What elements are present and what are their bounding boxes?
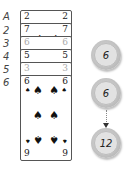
card-rank: 2 xyxy=(62,12,68,21)
spade-icon: ♠ xyxy=(25,138,30,144)
chip-6-second[interactable]: 6 xyxy=(91,78,121,108)
chip-value: 12 xyxy=(94,131,118,155)
card-rank: 3 xyxy=(24,64,30,73)
row-label-4: 4 xyxy=(3,52,15,62)
chip-value: 6 xyxy=(94,81,118,105)
card-rank: 3 xyxy=(62,64,68,73)
card-rank: 5 xyxy=(24,51,30,60)
card-6-spades[interactable]: 6 6 ♠ ♠ ♠ ♠ ♠ ♠ ♠ ♠ ♠ ♠ 9 9 xyxy=(20,75,72,161)
card-rank: 2 xyxy=(24,12,30,21)
card-rank: 7 xyxy=(24,25,30,34)
spade-icon: ♠ xyxy=(25,87,30,93)
row-label-a: A xyxy=(3,12,15,22)
row-label-2: 2 xyxy=(3,26,15,36)
spade-icon: ♠ xyxy=(49,85,59,96)
chip-6-first[interactable]: 6 xyxy=(91,40,121,70)
card-rank-bottom: 9 xyxy=(62,149,68,158)
row-label-5: 5 xyxy=(3,65,15,75)
card-rank: 6 xyxy=(24,77,30,86)
chip-value: 6 xyxy=(94,43,118,67)
card-rank: 6 xyxy=(62,77,68,86)
card-rank: 7 xyxy=(62,25,68,34)
chip-12-total[interactable]: 12 xyxy=(91,128,121,158)
card-rank: 5 xyxy=(62,51,68,60)
spade-icon: ♠ xyxy=(49,110,59,121)
spade-icon: ♠ xyxy=(33,110,43,121)
dotted-arrow-line xyxy=(106,110,107,124)
card-rank: 6 xyxy=(24,38,30,47)
row-label-6: 6 xyxy=(3,78,15,88)
spade-icon: ♠ xyxy=(33,134,43,145)
spade-icon: ♠ xyxy=(62,138,67,144)
row-label-3: 3 xyxy=(3,39,15,49)
spade-icon: ♠ xyxy=(62,87,67,93)
spade-icon: ♠ xyxy=(33,85,43,96)
card-rank-bottom: 9 xyxy=(24,149,30,158)
spade-icon: ♠ xyxy=(49,134,59,145)
card-rank: 6 xyxy=(62,38,68,47)
